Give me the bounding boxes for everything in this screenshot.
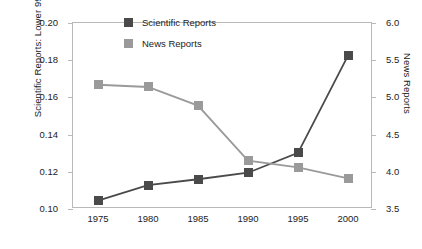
data-point-marker [144,181,153,190]
data-point-marker [194,175,203,184]
legend-swatch-icon [124,39,133,48]
left-tick-label: 0.10 [18,203,58,214]
data-point-marker [344,174,353,183]
right-tick-label: 5.0 [386,91,422,102]
series-lines [73,23,373,209]
legend-label: Scientific Reports [142,17,216,28]
legend-swatch-icon [124,18,133,27]
x-tick-label: 1990 [226,213,270,224]
right-tick-label: 4.5 [386,129,422,140]
left-tick-label: 0.14 [18,129,58,140]
left-tick-label: 0.18 [18,54,58,65]
series-line [98,56,348,201]
x-tick-label: 1980 [126,213,170,224]
data-point-marker [294,163,303,172]
x-tick-label: 2000 [326,213,370,224]
series-line [98,85,348,179]
right-tick-label: 3.5 [386,203,422,214]
legend-item: Scientific Reports [124,14,216,30]
left-tick-label: 0.16 [18,91,58,102]
x-tick-label: 1975 [76,213,120,224]
data-point-marker [194,101,203,110]
right-tick-label: 6.0 [386,17,422,28]
data-point-marker [244,168,253,177]
left-tick-label: 0.12 [18,166,58,177]
right-tick-label: 5.5 [386,54,422,65]
data-point-marker [244,156,253,165]
chart-legend: Scientific ReportsNews Reports [124,14,216,56]
data-point-marker [94,80,103,89]
data-point-marker [294,148,303,157]
x-tick-label: 1995 [276,213,320,224]
plot-area: 0.100.120.140.160.180.20 3.54.04.55.05.5… [72,22,372,208]
data-point-marker [344,51,353,60]
legend-item: News Reports [124,35,216,51]
right-tick-label: 4.0 [386,166,422,177]
x-tick-label: 1985 [176,213,220,224]
data-point-marker [144,82,153,91]
data-point-marker [94,196,103,205]
legend-label: News Reports [142,38,202,49]
right-tick [371,209,376,210]
left-tick-label: 0.20 [18,17,58,28]
right-axis-title: News Reports [402,39,413,129]
chart-container: Scientific Reports: Lower 99.9% C.I. New… [0,0,422,249]
left-tick [68,209,73,210]
